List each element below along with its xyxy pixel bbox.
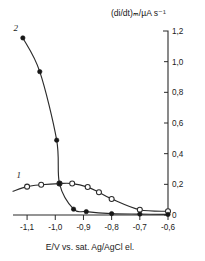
data-point-open xyxy=(85,185,90,190)
data-point-filled xyxy=(109,211,113,215)
data-point-filled xyxy=(71,207,75,211)
y-tick-label: 0,4 xyxy=(172,150,184,159)
x-tick: -1,1 xyxy=(20,215,35,232)
y-tick-label: 0,2 xyxy=(172,180,184,189)
data-series xyxy=(21,36,171,217)
y-tick: 0,4 xyxy=(164,150,184,159)
y-tick: 0,8 xyxy=(164,88,184,97)
x-tick: -0,9 xyxy=(76,215,91,232)
data-point-open xyxy=(25,184,30,189)
data-point-open xyxy=(96,190,101,195)
data-point-open xyxy=(39,182,44,187)
chart-plot: (di/dt)ₘ/µA s⁻¹ 00,20,40,60,81,01,2 -1,1… xyxy=(0,0,205,261)
data-point-filled xyxy=(54,138,58,142)
x-tick-label: -0,8 xyxy=(105,223,120,232)
y-axis-title-group: (di/dt)ₘ/µA s⁻¹ xyxy=(111,8,166,18)
y-tick: 1,0 xyxy=(164,58,184,67)
figure-container: (di/dt)ₘ/µA s⁻¹ 00,20,40,60,81,01,2 -1,1… xyxy=(0,0,205,261)
data-point-open xyxy=(137,207,142,212)
data-point-open xyxy=(109,196,114,201)
y-tick: 0,6 xyxy=(164,119,184,128)
curve-label: 2 xyxy=(14,23,19,33)
data-series xyxy=(13,181,171,214)
curve-annotations: 12 xyxy=(14,23,21,180)
data-point-filled xyxy=(57,181,61,185)
data-point-filled xyxy=(84,209,88,213)
x-tick-label: -0,9 xyxy=(76,223,91,232)
data-point-filled xyxy=(38,69,42,73)
x-tick: -1,0 xyxy=(48,215,63,232)
y-tick-label: 0,6 xyxy=(172,119,184,128)
y-tick-label: 0,8 xyxy=(172,88,184,97)
x-tick: -0,8 xyxy=(105,215,120,232)
y-tick: 1,2 xyxy=(172,27,184,36)
x-axis-title: E/V vs. sat. Ag/AgCl el. xyxy=(46,242,134,252)
x-tick-label: -0,6 xyxy=(161,223,176,232)
data-point-open xyxy=(70,181,75,186)
y-tick-label: 1,2 xyxy=(172,27,184,36)
data-point-filled xyxy=(166,212,170,216)
data-point-filled xyxy=(138,212,142,216)
y-axis-title: (di/dt)ₘ/µA s⁻¹ xyxy=(111,8,166,18)
x-tick-label: -1,1 xyxy=(20,223,35,232)
x-tick-label: -0,7 xyxy=(133,223,148,232)
y-tick-label: 1,0 xyxy=(172,58,184,67)
x-tick-label: -1,0 xyxy=(48,223,63,232)
y-tick: 0,2 xyxy=(164,180,184,189)
x-axis-ticks: -1,1-1,0-0,9-0,8-0,7-0,6 xyxy=(20,215,175,232)
x-tick: -0,7 xyxy=(133,215,148,232)
series-line xyxy=(23,38,168,214)
y-tick-label: 0 xyxy=(172,211,177,220)
y-axis-ticks: 00,20,40,60,81,01,2 xyxy=(164,27,184,220)
data-series-group xyxy=(13,36,171,217)
curve-label: 1 xyxy=(16,170,21,180)
data-point-filled xyxy=(21,36,25,40)
